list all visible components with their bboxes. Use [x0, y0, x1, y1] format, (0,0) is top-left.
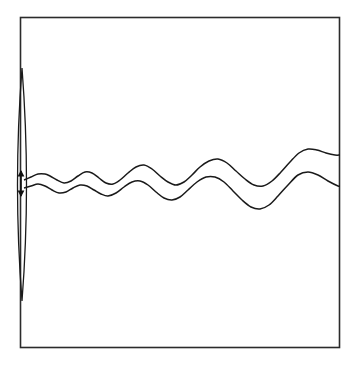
wave-diagram-figure: Wave propagation from an oscillating sou… — [0, 0, 358, 367]
oscillation-arrow-icon — [18, 170, 25, 197]
arrow-head-down-icon — [18, 191, 25, 198]
figure-canvas — [0, 0, 358, 367]
lower-wavefront-curve — [24, 172, 340, 209]
arrow-head-up-icon — [18, 170, 25, 177]
source-lens-shape — [18, 68, 27, 301]
